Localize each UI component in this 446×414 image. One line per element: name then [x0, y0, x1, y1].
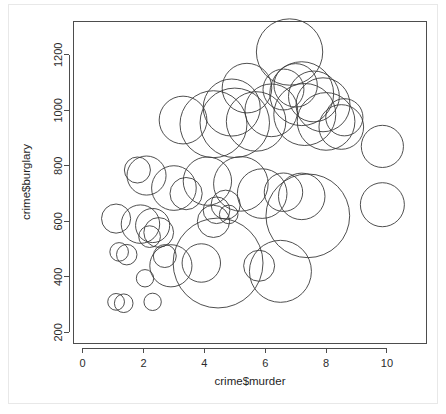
- x-tick-label: 6: [262, 357, 268, 369]
- bubble-point: [180, 91, 247, 158]
- bubble-point: [117, 244, 137, 264]
- y-tick-label: 800: [52, 157, 64, 175]
- bubble-point: [110, 243, 129, 262]
- bubble-point: [124, 157, 150, 183]
- bubble-point: [173, 218, 263, 308]
- bubble-point: [127, 156, 166, 195]
- bubble-point: [197, 205, 229, 237]
- bubble-chart: 0246810 20040060080010001200 crime$murde…: [0, 0, 446, 414]
- bubble-point: [244, 250, 275, 281]
- bubble-point: [170, 177, 202, 209]
- x-axis-title: crime$murder: [215, 375, 286, 387]
- y-tick-label: 1200: [52, 43, 64, 67]
- bubble-point: [183, 157, 231, 205]
- bubble-point: [326, 99, 363, 136]
- bubble-point: [266, 174, 350, 258]
- bubble-point: [249, 240, 311, 302]
- bubble-point: [361, 125, 403, 167]
- screenshot-page: 0246810 20040060080010001200 crime$murde…: [0, 0, 446, 414]
- bubble-point: [256, 19, 322, 85]
- bubble-point: [114, 294, 133, 313]
- x-tick-label: 0: [80, 357, 86, 369]
- y-tick-label: 200: [52, 323, 64, 341]
- bubble-point: [108, 293, 125, 310]
- y-tick-label: 600: [52, 212, 64, 230]
- x-tick-label: 4: [201, 357, 207, 369]
- bubble-point: [182, 244, 220, 282]
- x-tick-label: 2: [140, 357, 146, 369]
- y-tick-label: 400: [52, 268, 64, 286]
- y-axis-title: crime$burglary: [20, 144, 32, 220]
- x-axis: 0246810: [80, 348, 393, 369]
- bubble-point: [360, 183, 404, 227]
- chart-svg: 0246810 20040060080010001200 crime$murde…: [0, 0, 446, 414]
- bubble-series: [102, 19, 405, 313]
- bubble-point: [102, 204, 131, 233]
- bubble-point: [144, 293, 161, 310]
- y-tick-label: 1000: [52, 98, 64, 122]
- bubble-point: [214, 157, 269, 212]
- bubble-point: [136, 208, 170, 242]
- bubble-point: [319, 105, 364, 150]
- x-tick-label: 8: [323, 357, 329, 369]
- x-tick-label: 10: [381, 357, 393, 369]
- bubble-point: [226, 92, 286, 152]
- bubble-point: [211, 190, 240, 219]
- bubble-point: [136, 270, 153, 287]
- y-axis: 20040060080010001200: [52, 43, 69, 342]
